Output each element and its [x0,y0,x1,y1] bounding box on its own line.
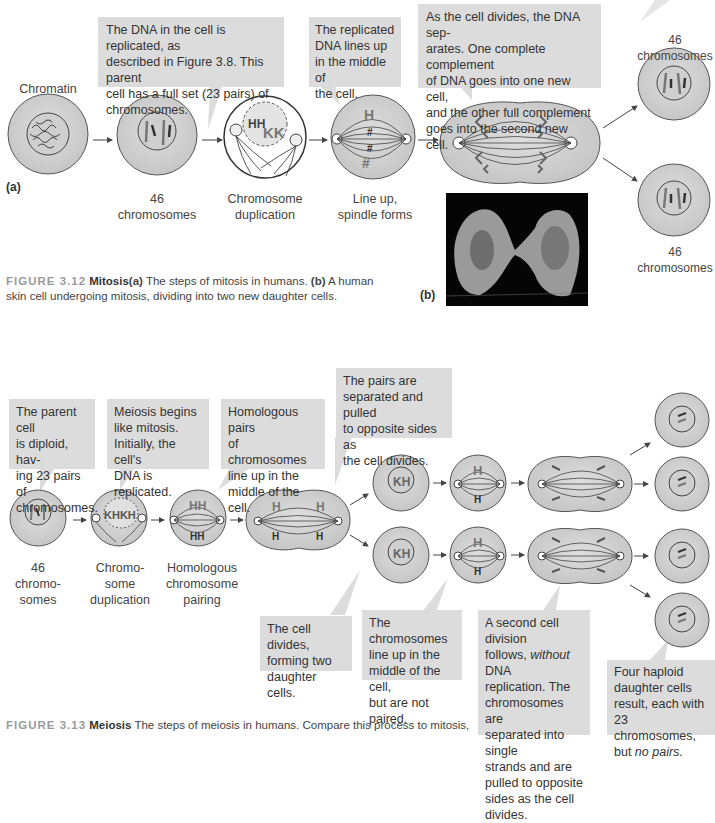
svg-text:HH: HH [189,499,206,513]
meiosis2-division-bottom [528,528,632,583]
svg-text:#: # [367,127,373,138]
svg-text:H: H [473,463,482,478]
micrograph-photo [446,193,588,306]
svg-text:#: # [362,155,370,171]
haploid-cell-3 [655,529,709,583]
svg-text:KHKH: KHKH [104,509,136,521]
callout-chromosomes-line-up: The chromosomes line up in the middle of… [362,610,462,680]
svg-text:H: H [272,531,279,542]
svg-text:H: H [364,107,374,123]
svg-text:KH: KH [393,475,410,489]
meiosis2-cell-bottom: KH [373,527,429,583]
svg-text:H: H [473,535,482,550]
chromatin-label: Chromatin [18,81,78,97]
meiosis2-lineup-bottom: H H [450,527,506,583]
daughter-label-bottom: 46 chromosomes [630,244,715,276]
figure-3-13-caption: FIGURE 3.13 Meiosis The steps of meiosis… [6,718,476,733]
panel-a-label: (a) [6,180,21,194]
callout-pairs-separated: The pairs are separated and pulled to op… [336,368,452,438]
svg-text:HH: HH [190,531,204,542]
haploid-cell-4 [655,593,709,647]
meiosis-step-chromosome-duplication: Chromo- some duplication [85,560,155,608]
svg-text:#: # [367,143,373,154]
step-46-chromosomes: 46 chromosomes [112,191,202,223]
meiosis-step-46-chromosomes: 46 chromo- somes [8,560,68,608]
svg-text:H: H [316,531,323,542]
haploid-cell-1 [655,393,709,447]
callout-four-haploid: Four haploid daughter cells result, each… [607,660,715,735]
cell-line-up-spindle: H # # # [331,95,415,179]
step-line-up-spindle: Line up, spindle forms [330,191,420,223]
figure-3-12-caption: FIGURE 3.12 Mitosis(a) The steps of mito… [6,274,406,304]
svg-text:KK: KK [263,124,285,141]
meiosis-step-homologous-pairing: Homologous chromosome pairing [162,560,242,608]
meiosis2-lineup-top: H H [450,455,506,511]
svg-text:H: H [474,566,481,577]
daughter-cell-bottom [638,164,710,236]
svg-text:KH: KH [393,547,410,561]
panel-b-label: (b) [420,288,435,302]
callout-homologous-pairs: Homologous pairs of chromosomes line up … [221,399,325,469]
daughter-label-top: 46 chromosomes [630,32,715,64]
svg-text:H: H [474,494,481,505]
chromatin-cell [8,94,88,174]
callout-second-division: A second cell division follows, without … [478,610,590,735]
callout-cell-divides: The cell divides, forming two daughter c… [260,616,352,671]
callout-parent-diploid: The parent cell is diploid, hav- ing 23 … [9,399,95,469]
haploid-cell-2 [655,457,709,511]
callout-meiosis-begins: Meiosis begins like mitosis. Initially, … [107,399,209,469]
meiosis2-division-top [528,456,632,511]
callout-dna-separates: As the cell divides, the DNA sep- arates… [418,4,601,88]
step-chromosome-duplication: Chromosome duplication [220,191,310,223]
callout-dna-lines-up: The replicated DNA lines up in the middl… [309,17,401,87]
callout-dna-replicated: The DNA in the cell is replicated, as de… [98,17,284,87]
